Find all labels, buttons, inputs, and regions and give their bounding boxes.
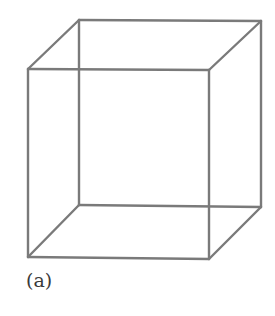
figure-caption: (a) bbox=[26, 271, 52, 290]
figure: (a) bbox=[0, 0, 275, 316]
top-left-depth-edge bbox=[28, 20, 79, 69]
top-right-depth-edge bbox=[209, 21, 261, 70]
back-top-edge bbox=[79, 20, 261, 21]
back-bottom-edge bbox=[79, 205, 261, 207]
bottom-left-depth-edge bbox=[28, 205, 79, 257]
front-bottom-edge bbox=[28, 257, 209, 259]
front-top-edge bbox=[28, 69, 209, 70]
bottom-right-depth-edge bbox=[209, 207, 261, 259]
